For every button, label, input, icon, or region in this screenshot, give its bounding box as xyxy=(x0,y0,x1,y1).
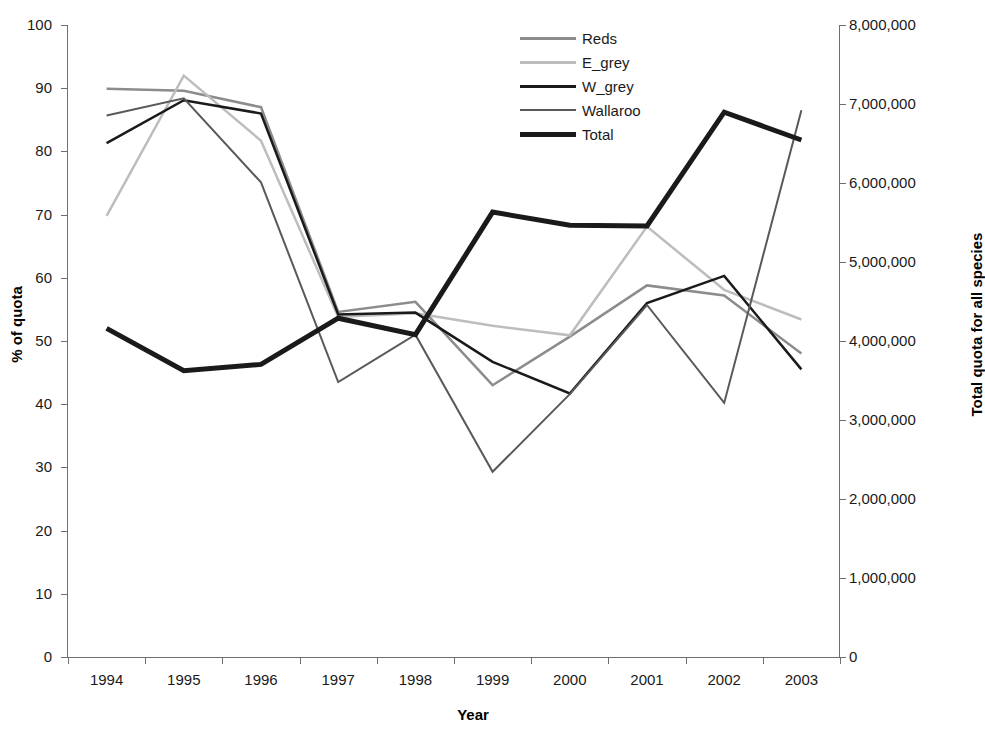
series-line-reds xyxy=(107,89,802,385)
series-line-w_grey xyxy=(107,100,802,393)
y-axis-left-tick-label: 20 xyxy=(0,523,52,538)
x-axis-tick-label: 2000 xyxy=(530,672,610,687)
series-line-e_grey xyxy=(107,76,802,336)
y-axis-right-tick-label: 2,000,000 xyxy=(849,491,949,506)
legend-line-swatch-icon xyxy=(520,84,576,89)
y-axis-left-tick-label: 0 xyxy=(0,649,52,664)
x-axis-tick-label: 2002 xyxy=(684,672,764,687)
y-axis-left-tick-label: 90 xyxy=(0,80,52,95)
y-axis-left-tick-label: 30 xyxy=(0,459,52,474)
x-axis-tick xyxy=(68,657,69,664)
y-axis-right-tick xyxy=(839,104,846,105)
legend-item-total[interactable]: Total xyxy=(520,122,660,146)
x-axis-tick-label: 2003 xyxy=(761,672,841,687)
y-axis-right-tick-label: 6,000,000 xyxy=(849,175,949,190)
x-axis-tick-label: 2001 xyxy=(607,672,687,687)
y-axis-left-tick xyxy=(61,25,68,26)
series-lines xyxy=(68,25,840,657)
y-axis-right-tick xyxy=(839,25,846,26)
y-axis-right-tick xyxy=(839,262,846,263)
y-axis-left-tick xyxy=(61,88,68,89)
legend-item-e_grey[interactable]: E_grey xyxy=(520,50,660,74)
x-axis-tick xyxy=(300,657,301,664)
x-axis-tick-label: 1995 xyxy=(144,672,224,687)
legend-line-swatch-icon xyxy=(520,131,576,138)
x-axis-tick xyxy=(377,657,378,664)
y-axis-right-tick-label: 1,000,000 xyxy=(849,570,949,585)
legend-item-w_grey[interactable]: W_grey xyxy=(520,74,660,98)
y-axis-left-tick-label: 100 xyxy=(0,17,52,32)
y-axis-left-title: % of quota xyxy=(8,265,25,385)
x-axis-title: Year xyxy=(0,706,946,723)
x-axis-tick-label: 1994 xyxy=(67,672,147,687)
series-line-total xyxy=(107,112,802,371)
y-axis-left-tick xyxy=(61,215,68,216)
legend-line-swatch-icon xyxy=(520,108,576,112)
legend-item-label: W_grey xyxy=(582,79,634,94)
y-axis-right-tick xyxy=(839,420,846,421)
y-axis-right-tick xyxy=(839,183,846,184)
y-axis-left-tick xyxy=(61,657,68,658)
y-axis-left-tick xyxy=(61,278,68,279)
y-axis-right-tick-label: 8,000,000 xyxy=(849,17,949,32)
legend-item-wallaroo[interactable]: Wallaroo xyxy=(520,98,660,122)
legend-item-label: Reds xyxy=(582,31,617,46)
legend-line-swatch-icon xyxy=(520,60,576,65)
y-axis-left-tick xyxy=(61,341,68,342)
y-axis-left-tick-label: 10 xyxy=(0,586,52,601)
legend-item-label: Wallaroo xyxy=(582,103,641,118)
x-axis-tick xyxy=(145,657,146,664)
y-axis-left-tick xyxy=(61,467,68,468)
y-axis-right-tick-label: 4,000,000 xyxy=(849,333,949,348)
x-axis-tick-label: 1999 xyxy=(453,672,533,687)
y-axis-left-tick xyxy=(61,151,68,152)
y-axis-left-tick xyxy=(61,404,68,405)
x-axis-tick-label: 1998 xyxy=(375,672,455,687)
x-axis-tick xyxy=(840,657,841,664)
y-axis-right-tick xyxy=(839,499,846,500)
legend-item-label: E_grey xyxy=(582,55,630,70)
y-axis-left-tick-label: 40 xyxy=(0,396,52,411)
y-axis-left-tick xyxy=(61,531,68,532)
y-axis-left-tick-label: 70 xyxy=(0,207,52,222)
x-axis-tick xyxy=(222,657,223,664)
y-axis-right-tick-label: 3,000,000 xyxy=(849,412,949,427)
y-axis-right-tick xyxy=(839,341,846,342)
legend-item-reds[interactable]: Reds xyxy=(520,26,660,50)
y-axis-right-title: Total quota for all species xyxy=(968,225,985,425)
legend-item-label: Total xyxy=(582,127,614,142)
x-axis-tick xyxy=(686,657,687,664)
chart-legend: RedsE_greyW_greyWallarooTotal xyxy=(520,22,660,150)
y-axis-right-tick-label: 5,000,000 xyxy=(849,254,949,269)
plot-area xyxy=(68,25,840,657)
x-axis-tick xyxy=(763,657,764,664)
x-axis-tick-label: 1996 xyxy=(221,672,301,687)
y-axis-left-tick xyxy=(61,594,68,595)
legend-line-swatch-icon xyxy=(520,36,576,41)
x-axis-tick xyxy=(531,657,532,664)
y-axis-right-tick xyxy=(839,578,846,579)
y-axis-right-tick-label: 0 xyxy=(849,649,949,664)
y-axis-right-tick-label: 7,000,000 xyxy=(849,96,949,111)
x-axis-tick-label: 1997 xyxy=(298,672,378,687)
x-axis-tick xyxy=(608,657,609,664)
y-axis-left-tick-label: 80 xyxy=(0,143,52,158)
x-axis-tick xyxy=(454,657,455,664)
